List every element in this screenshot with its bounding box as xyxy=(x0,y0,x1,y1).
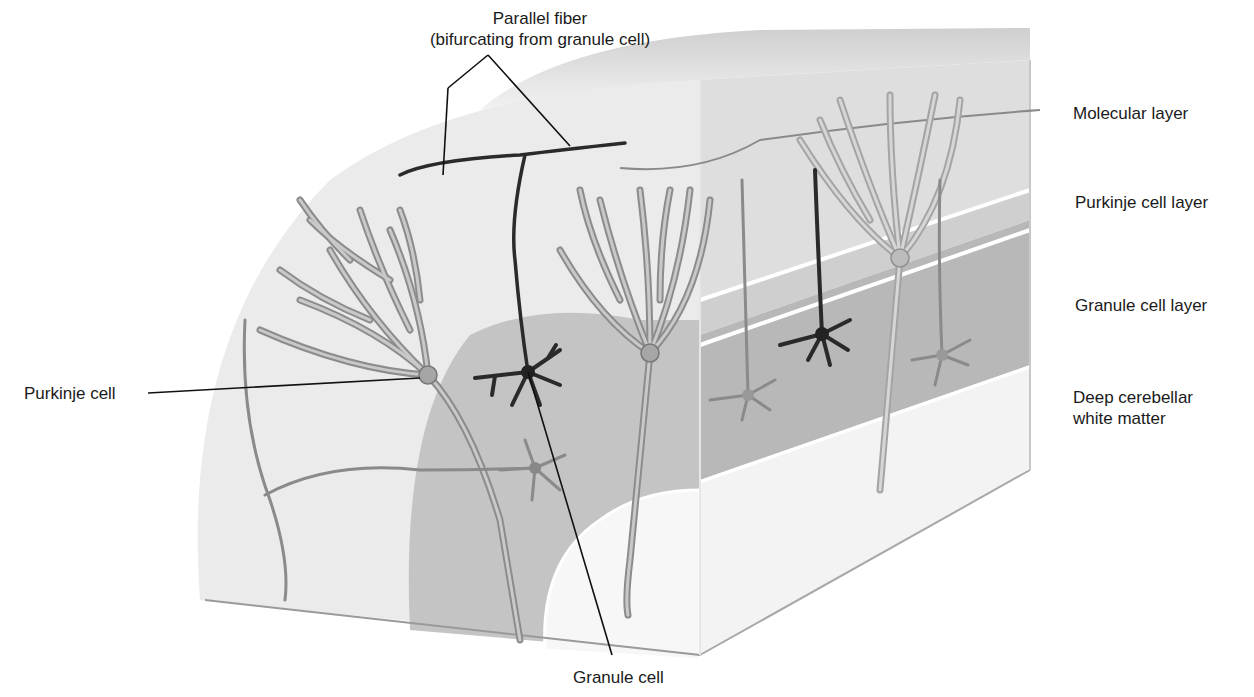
label-purkinje-cell-layer: Purkinje cell layer xyxy=(1075,192,1208,213)
label-purkinje-cell: Purkinje cell xyxy=(24,383,116,404)
label-granule-cell: Granule cell xyxy=(573,667,664,688)
label-molecular-layer: Molecular layer xyxy=(1073,103,1188,124)
label-deep-cerebellar-white-matter: Deep cerebellar white matter xyxy=(1073,387,1193,429)
label-white-matter-line2: white matter xyxy=(1073,408,1193,429)
granule-soma-faded-2 xyxy=(742,389,754,401)
right-face xyxy=(700,60,1030,655)
granule-soma-right xyxy=(815,327,829,341)
granule-soma-faded-1 xyxy=(529,462,541,474)
granule-soma-faded-3 xyxy=(936,349,948,361)
label-granule-cell-layer: Granule cell layer xyxy=(1075,295,1207,316)
label-parallel-fiber-line1: Parallel fiber xyxy=(420,8,660,29)
cerebellum-block-illustration xyxy=(0,0,1254,697)
label-parallel-fiber: Parallel fiber (bifurcating from granule… xyxy=(420,8,660,50)
purkinje-soma-middle xyxy=(641,344,659,362)
front-face xyxy=(198,80,700,660)
label-white-matter-line1: Deep cerebellar xyxy=(1073,387,1193,408)
purkinje-soma-right xyxy=(891,249,909,267)
purkinje-soma-left xyxy=(419,366,437,384)
cerebellum-diagram: Parallel fiber (bifurcating from granule… xyxy=(0,0,1254,697)
label-parallel-fiber-line2: (bifurcating from granule cell) xyxy=(420,29,660,50)
